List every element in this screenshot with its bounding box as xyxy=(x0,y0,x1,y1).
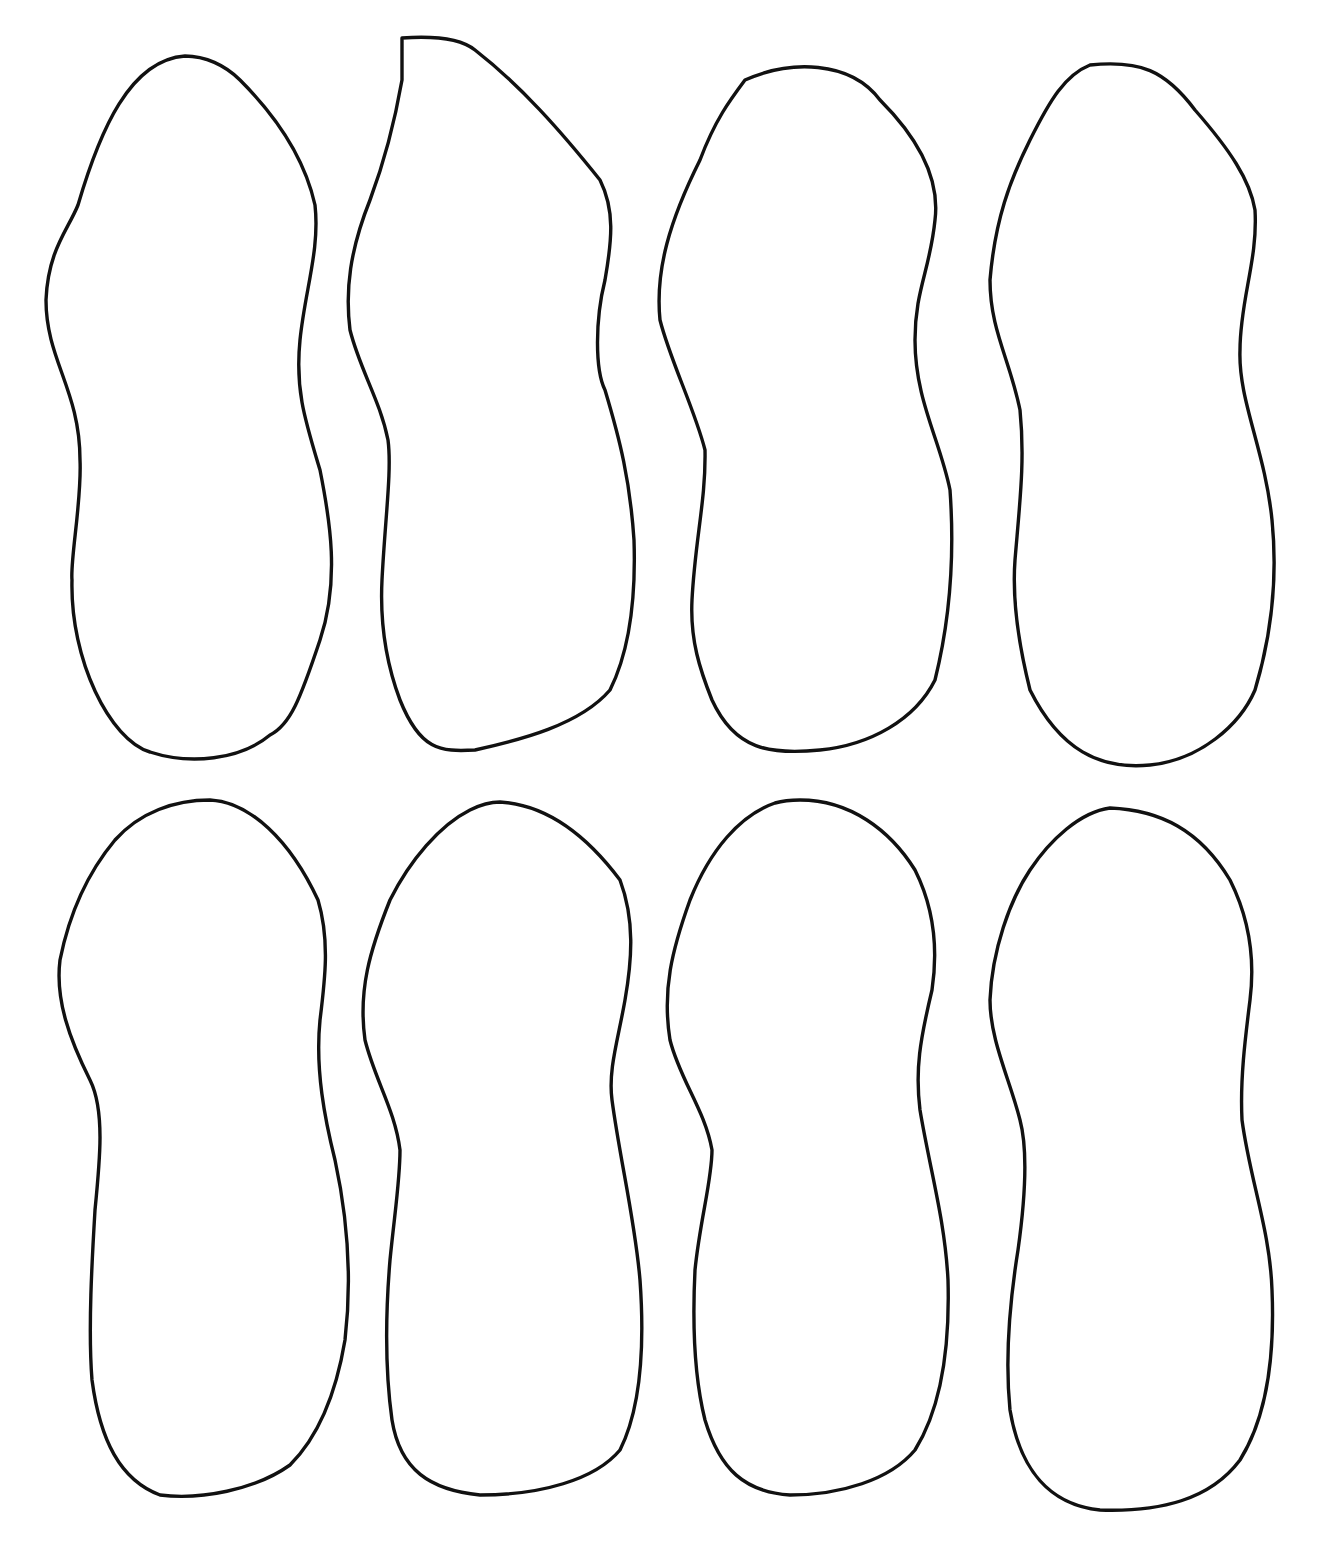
paper-background xyxy=(0,0,1326,1557)
peanut-outline-sheet xyxy=(0,0,1326,1557)
